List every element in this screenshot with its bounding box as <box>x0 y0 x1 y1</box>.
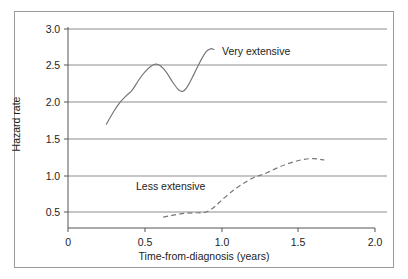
y-tick-label-3-0: 3.0 <box>34 23 60 35</box>
y-tick-label-1-5: 1.5 <box>34 133 60 145</box>
x-axis-title: Time-from-diagnosis (years) <box>0 250 408 262</box>
x-axis-line <box>68 228 375 232</box>
series-line-very-extensive <box>106 49 213 124</box>
y-tick-label-1-0: 1.0 <box>34 170 60 182</box>
y-axis-line <box>64 27 68 228</box>
series-label-very-extensive: Very extensive <box>222 45 290 57</box>
x-tick-label-0-5: 0.5 <box>130 236 160 248</box>
y-axis-title: Hazard rate <box>10 82 22 166</box>
x-tick-label-2-0: 2.0 <box>360 236 390 248</box>
x-tick-label-1-0: 1.0 <box>207 236 237 248</box>
y-tick-label-2-5: 2.5 <box>34 59 60 71</box>
y-tick-label-0-5: 0.5 <box>34 206 60 218</box>
y-tick-label-2-0: 2.0 <box>34 96 60 108</box>
chart-figure: 3.0 2.5 2.0 1.5 1.0 0.5 0 0.5 1.0 1.5 2.… <box>0 0 408 279</box>
x-tick-label-1-5: 1.5 <box>283 236 313 248</box>
series-label-less-extensive: Less extensive <box>136 180 205 192</box>
x-tick-label-0: 0 <box>53 236 83 248</box>
